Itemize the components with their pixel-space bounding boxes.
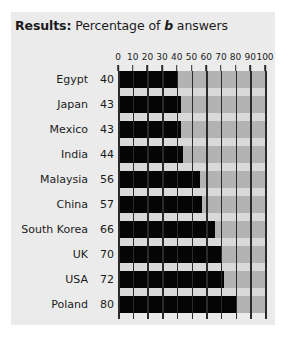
category-name: Poland bbox=[51, 296, 88, 313]
gridline bbox=[162, 71, 164, 319]
category-label-row: Mexico43 bbox=[18, 121, 114, 138]
x-tick-label: 50 bbox=[186, 52, 197, 63]
bar-fill bbox=[118, 121, 181, 138]
bar-fill bbox=[118, 171, 200, 188]
category-label-row: Japan43 bbox=[18, 96, 114, 113]
gridline bbox=[192, 71, 194, 319]
gridline bbox=[118, 71, 120, 319]
category-name: China bbox=[57, 196, 88, 213]
gridline bbox=[177, 71, 179, 319]
bar-chart: 0102030405060708090100 Egypt40Japan43Mex… bbox=[0, 0, 286, 342]
category-value: 56 bbox=[94, 171, 114, 188]
x-axis-tick-labels: 0102030405060708090100 bbox=[118, 52, 265, 63]
category-value: 80 bbox=[94, 296, 114, 313]
x-tick-label: 10 bbox=[127, 52, 138, 63]
category-label-row: Malaysia56 bbox=[18, 171, 114, 188]
x-tick-label: 30 bbox=[156, 52, 167, 63]
category-value: 70 bbox=[94, 246, 114, 263]
category-name: Egypt bbox=[56, 71, 88, 88]
gridline bbox=[236, 71, 238, 319]
category-label-row: China57 bbox=[18, 196, 114, 213]
category-label-row: USA72 bbox=[18, 271, 114, 288]
gridline bbox=[133, 71, 135, 319]
gridline bbox=[147, 71, 149, 319]
category-label-column: Egypt40Japan43Mexico43India44Malaysia56C… bbox=[18, 71, 114, 319]
category-value: 40 bbox=[94, 71, 114, 88]
gridline bbox=[221, 71, 223, 319]
category-name: Japan bbox=[57, 96, 88, 113]
category-label-row: Poland80 bbox=[18, 296, 114, 313]
category-name: Mexico bbox=[50, 121, 88, 138]
bar-fill bbox=[118, 96, 181, 113]
category-name: USA bbox=[65, 271, 88, 288]
gridline bbox=[206, 71, 208, 319]
category-name: UK bbox=[73, 246, 88, 263]
x-tick-label: 90 bbox=[245, 52, 256, 63]
category-label-row: India44 bbox=[18, 146, 114, 163]
x-tick-label: 20 bbox=[142, 52, 153, 63]
x-tick-label: 100 bbox=[256, 52, 273, 63]
category-label-row: UK70 bbox=[18, 246, 114, 263]
x-tick-label: 70 bbox=[215, 52, 226, 63]
x-tick-label: 0 bbox=[115, 52, 121, 63]
category-name: Malaysia bbox=[40, 171, 88, 188]
category-label-row: South Korea66 bbox=[18, 221, 114, 238]
gridline bbox=[265, 71, 267, 319]
category-name: South Korea bbox=[21, 221, 88, 238]
category-value: 43 bbox=[94, 96, 114, 113]
bar-fill bbox=[118, 196, 202, 213]
category-value: 72 bbox=[94, 271, 114, 288]
x-tick-label: 60 bbox=[200, 52, 211, 63]
x-tick-label: 80 bbox=[230, 52, 241, 63]
category-name: India bbox=[61, 146, 88, 163]
category-value: 57 bbox=[94, 196, 114, 213]
category-value: 43 bbox=[94, 121, 114, 138]
plot-area bbox=[118, 71, 265, 319]
category-label-row: Egypt40 bbox=[18, 71, 114, 88]
bar-fill bbox=[118, 146, 183, 163]
category-value: 44 bbox=[94, 146, 114, 163]
category-value: 66 bbox=[94, 221, 114, 238]
gridline bbox=[250, 71, 252, 319]
x-tick-label: 40 bbox=[171, 52, 182, 63]
